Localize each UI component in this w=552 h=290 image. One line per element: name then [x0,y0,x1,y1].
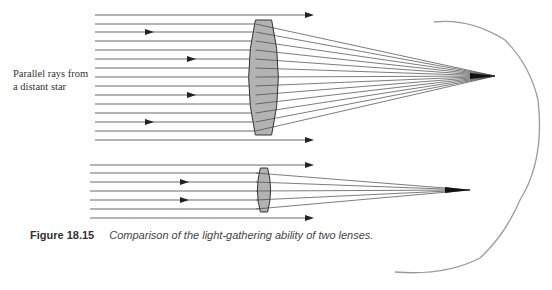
arrowhead-icon [305,215,314,221]
large-lens-group [95,12,495,143]
refracted-ray [256,59,496,76]
lens [257,168,270,212]
arrowhead-icon [180,197,189,203]
arrowhead-icon [305,12,314,18]
refracted-ray [256,76,496,77]
small-lens-group [90,162,470,221]
refracted-ray [256,190,470,191]
arrowhead-icon [145,29,154,35]
refracted-ray [256,24,496,76]
lens-comparison-diagram [0,0,552,290]
refracted-ray [256,173,470,190]
refracted-ray [256,76,496,113]
refracted-ray [256,182,470,190]
refracted-ray [256,190,470,200]
refracted-ray [256,76,496,95]
refracted-ray [256,190,470,209]
parallel-rays-label: Parallel rays from a distant star [13,67,88,93]
caption-text: Comparison of the light-gathering abilit… [109,229,373,241]
arrowhead-icon [187,56,196,62]
refracted-ray [256,76,496,104]
lens [249,20,279,135]
figure-caption: Figure 18.15 Comparison of the light-gat… [30,229,373,241]
arrowhead-icon [145,119,154,125]
refracted-ray [256,76,496,122]
arrowhead-icon [180,179,189,185]
focal-point-icon [445,187,470,193]
figure-number: Figure 18.15 [30,229,94,241]
refracted-ray [256,41,496,76]
arrowhead-icon [305,137,314,143]
arrowhead-icon [187,92,196,98]
arrowhead-icon [305,162,314,168]
